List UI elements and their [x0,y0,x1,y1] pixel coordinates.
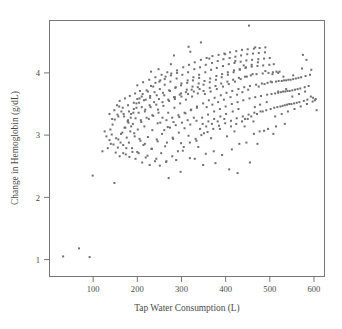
scatter-point [134,135,136,137]
scatter-point [202,123,204,125]
scatter-point [122,144,124,146]
scatter-point [293,102,295,104]
scatter-point [226,81,228,83]
scatter-point [191,96,193,98]
scatter-point [160,152,162,154]
scatter-point [254,46,256,48]
scatter-point [169,127,171,129]
scatter-point [230,120,232,122]
scatter-point [170,73,172,75]
scatter-point [264,51,266,53]
scatter-point [215,79,217,81]
scatter-point [167,126,169,128]
scatter-point [171,155,173,157]
scatter-point [202,102,204,104]
scatter-point [115,137,117,139]
scatter-point [109,139,111,141]
scatter-point [135,102,137,104]
scatter-point [236,117,238,119]
scatter-point [306,99,308,101]
scatter-point [308,85,310,87]
scatter-point [218,54,220,56]
scatter-point [180,82,182,84]
scatter-point [175,124,177,126]
scatter-point [220,94,222,96]
scatter-point [234,56,236,58]
scatter-point [168,89,170,91]
scatter-point [165,119,167,121]
scatter-point [188,64,190,66]
scatter-point [243,64,245,66]
scatter-point [195,140,197,142]
scatter-point [161,74,163,76]
scatter-point [175,159,177,161]
scatter-point [124,127,126,129]
scatter-point [186,82,188,84]
scatter-point [202,164,204,166]
scatter-point [144,109,146,111]
scatter-point [133,108,135,110]
x-tick-label: 600 [308,284,321,294]
scatter-point [244,76,246,78]
scatter-point [225,113,227,115]
scatter-point [246,76,248,78]
scatter-point [233,71,235,73]
scatter-point [143,99,145,101]
scatter-point [132,123,134,125]
scatter-point [237,108,239,110]
scatter-point [230,125,232,127]
scatter-point [154,160,156,162]
scatter-point [158,81,160,83]
scatter-point [247,48,249,50]
scatter-point [277,91,279,93]
scatter-point [227,71,229,73]
scatter-point [150,148,152,150]
scatter-point [226,135,228,137]
scatter-point [240,78,242,80]
scatter-point [228,168,230,170]
scatter-point [111,134,113,136]
scatter-point [252,73,254,75]
scatter-point [207,131,209,133]
scatter-point [167,99,169,101]
scatter-point [264,46,266,48]
x-tick-label: 200 [131,284,144,294]
scatter-point [287,110,289,112]
figure-background [0,0,342,329]
scatter-point [250,115,252,117]
scatter-point [221,76,223,78]
scatter-point [123,115,125,117]
scatter-point [187,79,189,81]
scatter-point [305,75,307,77]
scatter-point [282,76,284,78]
scatter-point [187,93,189,95]
scatter-point [105,135,107,137]
scatter-point [264,70,266,72]
scatter-point [138,152,140,154]
scatter-point [241,91,243,93]
scatter-point [256,143,258,145]
scatter-point [130,113,132,115]
scatter-point [122,107,124,109]
scatter-point [170,63,172,65]
scatter-point [211,62,213,64]
scatter-point [230,96,232,98]
scatter-point [285,79,287,81]
scatter-point [275,125,277,127]
scatter-point [264,83,266,85]
scatter-point [219,115,221,117]
scatter-point [163,129,165,131]
scatter-point [121,132,123,134]
scatter-point [215,75,217,77]
scatter-point [292,78,294,80]
scatter-point [177,150,179,152]
scatter-point [189,157,191,159]
scatter-point [217,60,219,62]
scatter-point [206,57,208,59]
scatter-point [316,109,318,111]
scatter-point [199,88,201,90]
scatter-point [137,129,139,131]
scatter-point [123,113,125,115]
scatter-point [131,147,133,149]
scatter-point [265,109,267,111]
